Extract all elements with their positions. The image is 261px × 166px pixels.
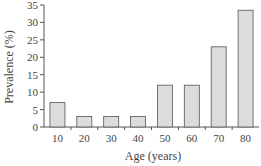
bar-50: [157, 85, 172, 127]
bar-20: [77, 117, 92, 127]
x-tick-label: 50: [159, 132, 171, 144]
x-axis-label: Age (years): [125, 149, 181, 163]
x-tick-label: 20: [79, 132, 91, 144]
y-tick-label: 35: [27, 0, 39, 11]
y-axis-label: Prevalence (%): [2, 30, 16, 104]
x-tick-label: 60: [186, 132, 198, 144]
bar-60: [184, 85, 199, 127]
bars: [50, 10, 253, 127]
y-tick-label: 20: [27, 51, 39, 63]
x-tick-label: 30: [106, 132, 118, 144]
y-axis: 05101520253035: [27, 0, 44, 133]
y-tick-label: 25: [27, 34, 39, 46]
y-tick-label: 0: [33, 121, 39, 133]
x-tick-label: 80: [240, 132, 252, 144]
x-tick-label: 40: [133, 132, 145, 144]
bar-40: [131, 117, 146, 127]
y-tick-label: 10: [27, 86, 39, 98]
y-tick-label: 15: [27, 69, 39, 81]
bar-30: [104, 117, 119, 127]
bar-chart: 05101520253035 1020304050607080 Prevalen…: [0, 0, 261, 166]
y-tick-label: 30: [27, 16, 39, 28]
x-tick-label: 10: [52, 132, 64, 144]
x-axis: 1020304050607080: [44, 127, 259, 144]
bar-70: [211, 47, 226, 127]
y-tick-label: 5: [33, 104, 39, 116]
bar-80: [238, 10, 253, 127]
x-tick-label: 70: [213, 132, 225, 144]
bar-10: [50, 103, 65, 127]
